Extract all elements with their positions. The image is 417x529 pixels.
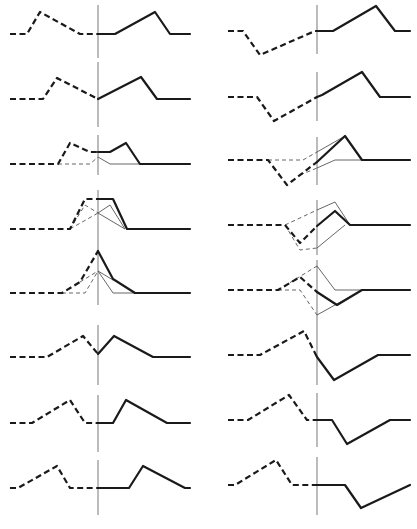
trace-thick-dashed [10,143,98,164]
trace-thin-solid [317,266,362,290]
trace-thick-dashed [228,277,317,292]
waveform-panel-left-3 [10,135,190,175]
trace-thick-dashed [10,199,98,229]
trace-thick-solid [317,485,410,508]
waveform-panel-right-6 [228,325,410,385]
trace-thin-dashed [58,157,98,164]
trace-thick-solid [98,466,190,488]
waveform-panel-left-6 [10,325,190,385]
trace-thin-solid [317,225,345,248]
trace-thick-solid [98,251,190,293]
waveform-panel-right-4 [228,200,410,255]
waveform-panel-left-1 [10,5,190,58]
waveform-diagram [0,0,417,529]
waveform-panel-left-8 [10,460,190,515]
trace-thick-dashed [10,12,98,34]
trace-thick-solid [317,290,410,305]
waveform-panel-right-3 [228,136,410,185]
trace-thin-dashed [70,205,98,229]
column-right [228,5,410,515]
trace-thick-dashed [228,331,317,357]
trace-thick-dashed [228,460,317,485]
column-left [10,5,190,515]
trace-thick-solid [317,420,410,444]
trace-thick-dashed [228,31,317,55]
trace-thick-dashed [228,225,317,243]
trace-thick-dashed [10,78,98,99]
trace-thick-solid [98,336,190,357]
trace-thick-dashed [10,466,98,488]
waveform-panel-left-2 [10,62,190,127]
trace-thick-dashed [228,97,317,121]
waveform-panel-left-5 [10,240,190,305]
trace-thin-solid [98,157,140,164]
trace-thin-dashed [285,210,317,225]
trace-thick-dashed [10,251,98,293]
trace-thin-dashed [285,225,317,250]
waveform-panel-right-2 [228,72,410,121]
trace-thick-dashed [228,395,317,420]
trace-thick-solid [98,400,190,423]
waveform-panel-left-4 [10,190,190,240]
waveform-panel-right-7 [228,393,410,447]
trace-thick-solid [98,143,190,164]
trace-thin-solid [317,160,362,168]
trace-thin-dashed [268,152,317,160]
trace-thick-solid [98,199,190,229]
trace-thick-solid [317,136,410,162]
trace-thick-solid [317,355,410,380]
trace-thick-solid [317,211,410,226]
trace-thick-dashed [228,160,317,185]
waveform-panel-right-5 [228,260,410,325]
waveform-panel-right-8 [228,457,410,515]
trace-thick-dashed [10,400,98,423]
trace-thick-solid [317,6,410,31]
waveform-panel-left-7 [10,395,190,452]
trace-thick-dashed [10,336,98,357]
trace-thin-dashed [278,290,317,315]
trace-thick-solid [98,12,190,34]
trace-thick-solid [317,72,410,97]
waveform-panel-right-1 [228,5,410,55]
trace-thick-solid [98,77,190,99]
